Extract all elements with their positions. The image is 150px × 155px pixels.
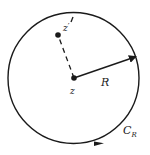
radius-arrow	[74, 57, 135, 78]
contour-diagram: z z′ R CR	[0, 0, 150, 155]
dashed-segment	[58, 35, 74, 78]
contour-label: CR	[123, 124, 137, 139]
center-point	[71, 75, 77, 81]
contour-direction-arrow-icon	[94, 142, 104, 147]
interior-point-label: z′	[62, 21, 70, 33]
radius-label: R	[100, 76, 109, 89]
interior-point	[55, 32, 61, 38]
dashed-extension	[71, 17, 73, 22]
center-point-label: z	[69, 86, 75, 96]
